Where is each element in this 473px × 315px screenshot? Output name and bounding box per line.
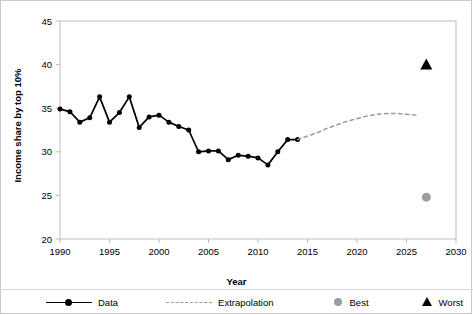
y-tick-label: 25 (41, 190, 52, 201)
data-point (265, 162, 270, 167)
data-point (87, 115, 92, 120)
legend-item-data: Data (46, 297, 118, 308)
x-tick-label: 2005 (198, 246, 219, 257)
x-tick-label: 2030 (445, 246, 466, 257)
legend-divider (0, 289, 473, 290)
chart-legend: Data Extrapolation Best Worst (0, 291, 473, 313)
data-point (67, 109, 72, 114)
extrapolation-series-line (298, 113, 417, 139)
best-marker (422, 193, 431, 202)
data-point (236, 153, 241, 158)
legend-label-data: Data (98, 297, 118, 308)
data-point (226, 157, 231, 162)
x-tick-label: 2000 (148, 246, 169, 257)
x-tick-label: 2025 (396, 246, 417, 257)
x-tick-label: 1995 (99, 246, 120, 257)
x-tick-label: 2015 (297, 246, 318, 257)
data-point (196, 149, 201, 154)
data-point (256, 155, 261, 160)
data-point (97, 94, 102, 99)
line-marker-icon (46, 297, 92, 307)
y-tick-label: 30 (41, 146, 52, 157)
legend-label-worst: Worst (439, 297, 464, 308)
chart-container: Income share by top 10% 2025303540451990… (0, 0, 473, 315)
x-tick-label: 2020 (346, 246, 367, 257)
data-series-line (60, 97, 298, 165)
data-point (117, 110, 122, 115)
legend-label-best: Best (350, 297, 369, 308)
data-point (275, 149, 280, 154)
data-point (246, 154, 251, 159)
y-tick-label: 35 (41, 103, 52, 114)
data-point (216, 148, 221, 153)
data-point (127, 94, 132, 99)
worst-marker (420, 59, 432, 70)
data-point (137, 125, 142, 130)
y-tick-label: 45 (41, 16, 52, 27)
data-point (58, 107, 63, 112)
plot-area: 2025303540451990199520002005201020152020… (0, 0, 473, 290)
data-point (166, 120, 171, 125)
data-point (147, 114, 152, 119)
x-tick-label: 1990 (49, 246, 70, 257)
triangle-marker-icon (421, 296, 433, 308)
legend-item-best: Best (332, 296, 369, 308)
data-point (176, 124, 181, 129)
circle-marker-icon (332, 296, 344, 308)
x-tick-label: 2010 (247, 246, 268, 257)
data-point (107, 120, 112, 125)
data-point (157, 113, 162, 118)
data-point (186, 128, 191, 133)
legend-label-extrapolation: Extrapolation (218, 297, 273, 308)
y-tick-label: 20 (41, 234, 52, 245)
x-axis-title: Year (0, 276, 473, 287)
data-point (77, 120, 82, 125)
dashed-line-icon (166, 297, 212, 307)
y-tick-label: 40 (41, 59, 52, 70)
legend-item-extrapolation: Extrapolation (166, 297, 273, 308)
data-point (206, 148, 211, 153)
data-point (285, 137, 290, 142)
legend-item-worst: Worst (421, 296, 464, 308)
